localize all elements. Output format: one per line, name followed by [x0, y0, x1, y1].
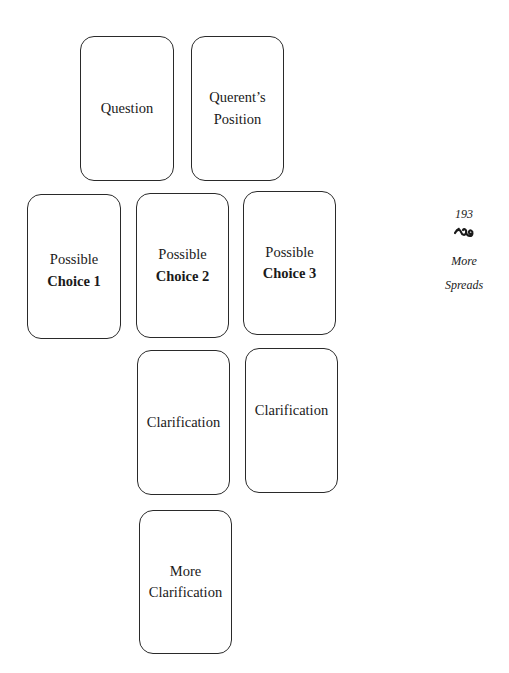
section-title-line: More	[440, 250, 488, 272]
card-label: Possible	[265, 242, 313, 263]
fleuron-swirl-icon	[440, 226, 488, 248]
card-label: Clarification	[149, 582, 222, 603]
margin-running-head: 193 More Spreads	[440, 206, 488, 296]
card-label-bold: Choice 1	[47, 271, 101, 292]
card-possible-choice-3: Possible Choice 3	[243, 191, 336, 335]
card-question: Question	[80, 36, 174, 181]
card-label: Position	[214, 109, 262, 130]
card-clarification-2: Clarification	[245, 348, 338, 493]
card-label: Clarification	[255, 400, 328, 421]
card-label: Clarification	[147, 412, 220, 433]
card-label-bold: Choice 3	[263, 263, 317, 284]
card-possible-choice-1: Possible Choice 1	[27, 194, 121, 339]
card-label: Possible	[50, 249, 98, 270]
card-label: Question	[101, 98, 153, 119]
card-querents-position: Querent’s Position	[191, 36, 284, 181]
card-clarification-1: Clarification	[137, 350, 230, 495]
card-label-bold: Choice 2	[156, 266, 210, 287]
card-possible-choice-2: Possible Choice 2	[136, 193, 229, 338]
card-label: Possible	[158, 244, 206, 265]
page-number: 193	[440, 206, 488, 222]
section-title-line: Spreads	[440, 274, 488, 296]
card-label: Querent’s	[209, 87, 265, 108]
card-label: More	[170, 561, 201, 582]
card-more-clarification: More Clarification	[139, 510, 232, 654]
